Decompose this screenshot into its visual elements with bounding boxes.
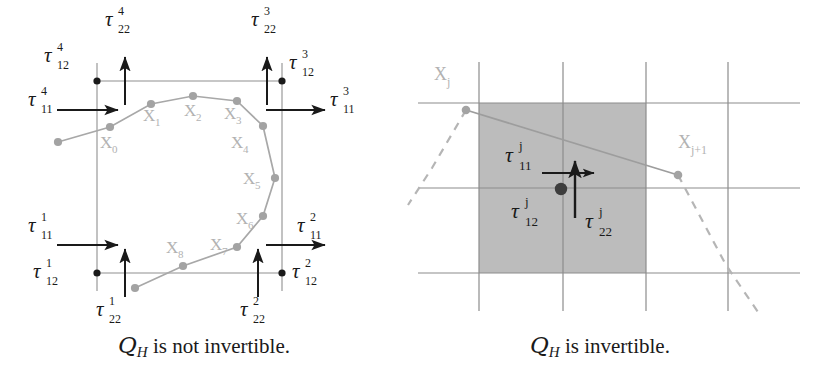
- vertex-label-x7: X7: [210, 235, 228, 257]
- svg-text:4: 4: [243, 143, 249, 155]
- tau-22-3-label: τ 22 3: [251, 4, 276, 36]
- svg-text:22: 22: [253, 312, 265, 326]
- corner-dot-top-left: [93, 77, 100, 84]
- svg-text:j+1: j+1: [690, 143, 707, 157]
- svg-text:X: X: [243, 169, 255, 188]
- svg-text:1: 1: [109, 294, 115, 308]
- svg-text:X: X: [678, 132, 691, 152]
- svg-text:3: 3: [264, 4, 270, 18]
- svg-text:τ: τ: [292, 259, 301, 283]
- svg-text:τ: τ: [28, 87, 37, 111]
- svg-text:11: 11: [519, 158, 532, 173]
- vertex-label-x6: X6: [236, 209, 254, 231]
- svg-text:2: 2: [310, 210, 316, 224]
- vertex-label-x0: X0: [100, 133, 118, 155]
- svg-text:τ: τ: [33, 259, 42, 283]
- left-panel-labels: τ 12 4 τ 22 4 τ 11 4 τ 22 3 τ 12: [28, 4, 355, 326]
- vertex-label-xj: Xj: [434, 64, 450, 89]
- svg-text:j: j: [598, 204, 603, 219]
- svg-text:5: 5: [255, 179, 261, 191]
- svg-text:3: 3: [343, 84, 349, 98]
- tau-12-2-label: τ 12 2: [292, 256, 317, 288]
- svg-text:τ: τ: [289, 50, 298, 74]
- svg-text:4: 4: [118, 4, 124, 18]
- svg-text:12: 12: [46, 274, 58, 288]
- caption-left-symbol: Q: [118, 332, 137, 358]
- interface-node-xj: [462, 106, 471, 115]
- svg-text:22: 22: [599, 224, 612, 239]
- svg-text:τ: τ: [105, 7, 114, 31]
- svg-text:τ: τ: [28, 213, 37, 237]
- svg-text:τ: τ: [240, 297, 249, 321]
- caption-right: QH is invertible.: [530, 332, 670, 361]
- svg-text:τ: τ: [44, 43, 53, 67]
- tau-11-3-label: τ 11 3: [330, 84, 355, 116]
- svg-text:7: 7: [222, 245, 228, 257]
- tau-12-4-label: τ 12 4: [44, 40, 69, 72]
- tau-11-1-label: τ 11 1: [28, 210, 53, 242]
- tau-22-2-label: τ 22 2: [240, 294, 265, 326]
- svg-text:X: X: [434, 64, 447, 84]
- vertex-label-x2: X2: [184, 101, 202, 123]
- vertex-label-x3: X3: [224, 104, 242, 126]
- svg-text:12: 12: [305, 274, 317, 288]
- corner-dot-top-right: [278, 77, 285, 84]
- tau-12-1-label: τ 12 1: [33, 256, 58, 288]
- interface-node: [233, 243, 241, 251]
- caption-right-subscript: H: [549, 344, 560, 360]
- svg-text:X: X: [100, 133, 112, 152]
- svg-text:22: 22: [118, 22, 130, 36]
- figure-page: τ 12 4 τ 22 4 τ 11 4 τ 22 3 τ 12: [0, 0, 834, 378]
- interface-node: [271, 174, 279, 182]
- svg-text:3: 3: [236, 114, 242, 126]
- svg-text:6: 6: [248, 219, 254, 231]
- corner-dot-bottom-right: [278, 269, 285, 276]
- svg-text:12: 12: [57, 58, 69, 72]
- svg-text:X: X: [224, 104, 236, 123]
- svg-text:X: X: [210, 235, 222, 254]
- svg-text:4: 4: [57, 40, 63, 54]
- interface-nodes: [54, 92, 279, 292]
- svg-text:1: 1: [41, 210, 47, 224]
- interface-node: [179, 262, 187, 270]
- svg-text:3: 3: [302, 47, 308, 61]
- svg-text:τ: τ: [585, 208, 594, 233]
- corner-dot-bottom-left: [93, 269, 100, 276]
- svg-text:1: 1: [155, 116, 161, 128]
- svg-text:1: 1: [46, 256, 52, 270]
- svg-text:0: 0: [112, 143, 118, 155]
- vertex-label-x4: X4: [231, 133, 249, 155]
- caption-right-text: is invertible.: [560, 334, 670, 358]
- svg-text:8: 8: [178, 248, 184, 260]
- interface-dashed-left: [408, 110, 466, 205]
- svg-text:11: 11: [310, 228, 322, 242]
- vertex-label-x8: X8: [166, 238, 184, 260]
- svg-text:X: X: [231, 133, 243, 152]
- svg-text:X: X: [143, 106, 155, 125]
- svg-text:12: 12: [302, 65, 314, 79]
- interface-node-xj1: [674, 171, 683, 180]
- interface-dashed-right: [678, 175, 760, 315]
- svg-text:X: X: [236, 209, 248, 228]
- svg-text:12: 12: [525, 214, 538, 229]
- svg-text:X: X: [184, 101, 196, 120]
- svg-text:11: 11: [41, 102, 53, 116]
- svg-text:22: 22: [109, 312, 121, 326]
- svg-text:2: 2: [196, 111, 202, 123]
- svg-text:j: j: [524, 194, 529, 209]
- interface-polyline: [58, 96, 275, 288]
- tau-22-4-label: τ 22 4: [105, 4, 130, 36]
- caption-right-symbol: Q: [530, 332, 549, 358]
- svg-text:j: j: [518, 138, 523, 153]
- interface-node: [259, 122, 267, 130]
- svg-text:τ: τ: [511, 198, 520, 223]
- tau-11-4-label: τ 11 4: [28, 84, 53, 116]
- tau-22-1-label: τ 22 1: [96, 294, 121, 326]
- svg-text:τ: τ: [251, 7, 260, 31]
- svg-text:X: X: [166, 238, 178, 257]
- svg-text:τ: τ: [505, 142, 514, 167]
- svg-text:2: 2: [305, 256, 311, 270]
- interface-node: [106, 123, 114, 131]
- figure-svg: τ 12 4 τ 22 4 τ 11 4 τ 22 3 τ 12: [0, 0, 834, 378]
- svg-text:11: 11: [41, 228, 53, 242]
